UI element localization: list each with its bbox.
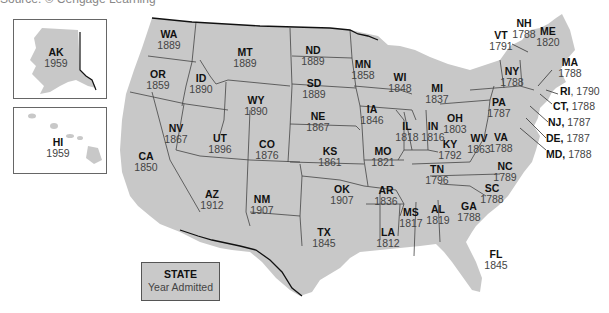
state-label-nh: NH1788 [512,18,535,40]
state-label-va: VA1788 [489,132,512,154]
hawaii-inset: HI 1959 [13,107,107,174]
state-label-or: OR1859 [146,69,169,91]
legend-subtitle: Year Admitted [142,281,219,293]
state-label-hi: HI 1959 [46,137,69,159]
state-label-ny: NY1788 [500,66,523,88]
state-label-il: IL1818 [395,121,418,143]
state-label-ut: UT1896 [208,133,231,155]
state-label-nm: NM1907 [250,194,273,216]
state-label-ia: IA1846 [360,104,383,126]
state-label-nv: NV1867 [164,123,187,145]
state-label-oh: OH1803 [443,113,466,135]
state-label-md: MD, 1788 [546,149,592,160]
state-label-sc: SC1788 [480,183,503,205]
state-label-de: DE, 1787 [546,133,590,144]
state-label-vt: VT1791 [489,30,512,52]
state-label-ak: AK 1959 [44,47,67,69]
state-label-ms: MS1817 [399,207,422,229]
state-label-ma: MA1788 [558,57,581,79]
state-label-ks: KS1861 [318,146,341,168]
state-label-fl: FL1845 [484,249,507,271]
state-label-mn: MN1858 [351,59,374,81]
state-label-mt: MT1889 [233,47,256,69]
state-label-la: LA1812 [376,227,399,249]
state-label-me: ME1820 [536,26,559,48]
state-label-co: CO1876 [255,139,278,161]
alaska-inset: AK 1959 [13,19,107,99]
state-label-ri: RI, 1790 [560,86,600,97]
state-label-sd: SD1889 [302,78,325,100]
state-label-ct: CT, 1788 [553,101,595,112]
state-label-ga: GA1788 [457,201,480,223]
state-label-mi: MI1837 [425,83,448,105]
state-label-wy: WY1890 [244,95,267,117]
state-label-tn: TN1796 [425,164,448,186]
state-label-ok: OK1907 [330,184,353,206]
state-label-al: AL1819 [426,204,449,226]
state-label-az: AZ1912 [200,189,223,211]
state-label-id: ID1890 [189,73,212,95]
state-label-ne: NE1867 [306,111,329,133]
state-label-ky: KY1792 [438,139,461,161]
legend-title: STATE [142,268,219,280]
state-label-nc: NC1789 [493,161,516,183]
state-label-tx: TX1845 [312,227,335,249]
state-label-wv: WV1863 [467,133,490,155]
state-label-pa: PA1787 [487,97,510,119]
state-label-ca: CA1850 [134,151,157,173]
state-label-mo: MO1821 [371,146,394,168]
state-label-wi: WI1848 [388,72,411,94]
state-label-nd: ND1889 [301,45,324,67]
state-label-wa: WA1889 [157,29,180,51]
state-label-ar: AR1836 [374,185,397,207]
state-label-nj: NJ, 1787 [548,117,591,128]
map-legend: STATE Year Admitted [141,262,220,301]
